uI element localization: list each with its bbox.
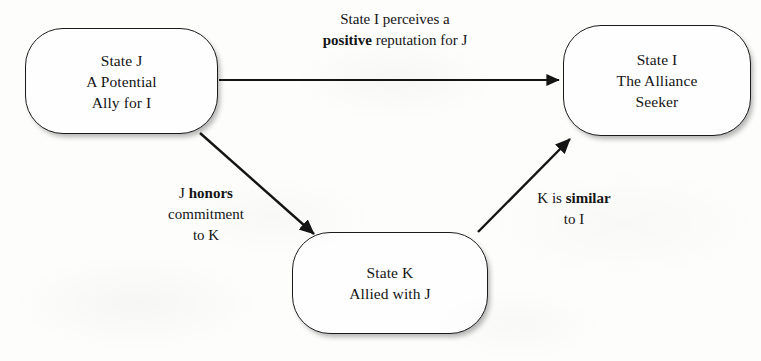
node-state-j-label: State J A Potential Ally for I xyxy=(86,50,156,113)
edge-label-j-to-i: State I perceives apositive reputation f… xyxy=(275,9,515,51)
edge-label-j-to-k: J honorscommitmentto K xyxy=(135,183,277,246)
diagram-canvas: State J A Potential Ally for I State I T… xyxy=(0,0,761,361)
node-state-k[interactable]: State K Allied with J xyxy=(292,232,488,334)
node-state-k-label: State K Allied with J xyxy=(349,262,430,304)
node-state-j[interactable]: State J A Potential Ally for I xyxy=(25,28,218,134)
node-state-i[interactable]: State I The Alliance Seeker xyxy=(563,25,751,136)
edge-label-k-to-i: K is similarto I xyxy=(500,188,648,230)
node-state-i-label: State I The Alliance Seeker xyxy=(617,49,698,112)
